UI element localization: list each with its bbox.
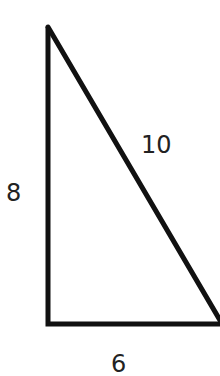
vertical-leg-label: 8 xyxy=(6,181,21,205)
right-triangle xyxy=(0,0,220,376)
hypotenuse-line xyxy=(48,27,220,322)
horizontal-leg-label: 6 xyxy=(111,352,126,376)
hypotenuse-label: 10 xyxy=(141,133,172,157)
